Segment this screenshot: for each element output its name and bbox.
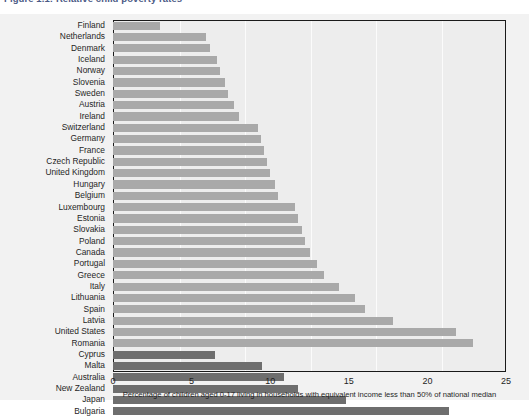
bar-row bbox=[113, 406, 506, 417]
bar bbox=[113, 328, 456, 336]
category-label: Slovenia bbox=[0, 77, 109, 88]
category-label: Greece bbox=[0, 270, 109, 281]
category-label: Iceland bbox=[0, 54, 109, 65]
category-label: Sweden bbox=[0, 88, 109, 99]
chart-area: FinlandNetherlandsDenmarkIcelandNorwaySl… bbox=[0, 14, 529, 400]
bar-row bbox=[113, 372, 506, 383]
bar-row bbox=[113, 190, 506, 201]
bar-row bbox=[113, 270, 506, 281]
bar-row bbox=[113, 77, 506, 88]
category-label: Slovakia bbox=[0, 224, 109, 235]
category-label: Spain bbox=[0, 304, 109, 315]
category-label: Canada bbox=[0, 247, 109, 258]
bar bbox=[113, 112, 239, 120]
bar-row bbox=[113, 258, 506, 269]
category-label: Romania bbox=[0, 338, 109, 349]
bar-row bbox=[113, 122, 506, 133]
bar bbox=[113, 33, 206, 41]
figure-title: Figure 1.1: Relative child poverty rates bbox=[4, 0, 182, 4]
bar-row bbox=[113, 247, 506, 258]
bar bbox=[113, 67, 220, 75]
category-label: Luxembourg bbox=[0, 202, 109, 213]
bar-row bbox=[113, 360, 506, 371]
category-label: United States bbox=[0, 326, 109, 337]
x-tick-label: 15 bbox=[344, 376, 354, 386]
x-tick-label: 20 bbox=[422, 376, 432, 386]
bar-row bbox=[113, 111, 506, 122]
category-label: Austria bbox=[0, 99, 109, 110]
bar bbox=[113, 226, 302, 234]
category-label: Lithuania bbox=[0, 292, 109, 303]
category-label: Belgium bbox=[0, 190, 109, 201]
bar bbox=[113, 283, 339, 291]
bar bbox=[113, 305, 365, 313]
bar bbox=[113, 407, 449, 415]
category-label: Hungary bbox=[0, 179, 109, 190]
bar bbox=[113, 124, 258, 132]
bar-row bbox=[113, 224, 506, 235]
bar bbox=[113, 237, 305, 245]
category-label: Japan bbox=[0, 394, 109, 405]
x-tick-label: 10 bbox=[265, 376, 275, 386]
bar bbox=[113, 260, 317, 268]
x-tick-label: 5 bbox=[189, 376, 194, 386]
category-label: Cyprus bbox=[0, 349, 109, 360]
bar-row bbox=[113, 281, 506, 292]
bar bbox=[113, 362, 262, 370]
category-label: Denmark bbox=[0, 43, 109, 54]
category-label: Finland bbox=[0, 20, 109, 31]
category-label: Norway bbox=[0, 65, 109, 76]
bar bbox=[113, 271, 324, 279]
x-axis-label: Percentage of children aged 0-17 living … bbox=[113, 390, 506, 399]
bar bbox=[113, 294, 355, 302]
bar-row bbox=[113, 145, 506, 156]
bar bbox=[113, 158, 267, 166]
bar bbox=[113, 78, 225, 86]
bar bbox=[113, 146, 264, 154]
category-label: France bbox=[0, 145, 109, 156]
bar-row bbox=[113, 54, 506, 65]
bar bbox=[113, 180, 275, 188]
bar-series bbox=[113, 20, 506, 372]
bar bbox=[113, 203, 295, 211]
bar bbox=[113, 373, 284, 381]
category-label: Estonia bbox=[0, 213, 109, 224]
bar-row bbox=[113, 349, 506, 360]
bar bbox=[113, 56, 217, 64]
category-label: Netherlands bbox=[0, 31, 109, 42]
category-label: Bulgaria bbox=[0, 406, 109, 417]
category-label: Switzerland bbox=[0, 122, 109, 133]
bar bbox=[113, 90, 228, 98]
bar-row bbox=[113, 99, 506, 110]
bar-row bbox=[113, 202, 506, 213]
bar-row bbox=[113, 20, 506, 31]
bar-row bbox=[113, 315, 506, 326]
bar bbox=[113, 317, 393, 325]
bar-row bbox=[113, 167, 506, 178]
bar bbox=[113, 22, 160, 30]
bar bbox=[113, 214, 298, 222]
category-label: Germany bbox=[0, 133, 109, 144]
bar-row bbox=[113, 88, 506, 99]
category-label: New Zealand bbox=[0, 383, 109, 394]
bar bbox=[113, 192, 278, 200]
bar-row bbox=[113, 43, 506, 54]
bar-row bbox=[113, 338, 506, 349]
category-label: Ireland bbox=[0, 111, 109, 122]
category-label: United Kingdom bbox=[0, 167, 109, 178]
bar-row bbox=[113, 213, 506, 224]
bar bbox=[113, 101, 234, 109]
bar-row bbox=[113, 133, 506, 144]
bar bbox=[113, 44, 210, 52]
bar-row bbox=[113, 236, 506, 247]
category-label: Malta bbox=[0, 360, 109, 371]
bar bbox=[113, 135, 261, 143]
bar-row bbox=[113, 31, 506, 42]
category-label: Italy bbox=[0, 281, 109, 292]
bar-row bbox=[113, 65, 506, 76]
x-tick-label: 0 bbox=[110, 376, 115, 386]
bar bbox=[113, 248, 310, 256]
bar-row bbox=[113, 304, 506, 315]
bar-row bbox=[113, 156, 506, 167]
bar bbox=[113, 339, 473, 347]
